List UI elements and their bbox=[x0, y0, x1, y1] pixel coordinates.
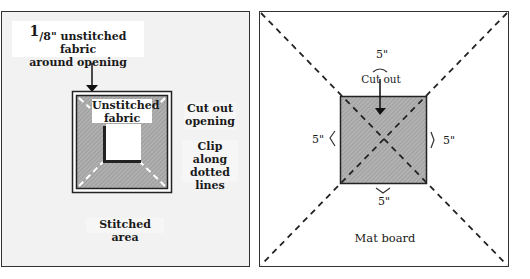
mat-board-label: Mat board bbox=[350, 232, 420, 245]
cut-out-label: Cut out bbox=[356, 73, 406, 86]
top-measure-label: 5" bbox=[370, 48, 394, 61]
left-measure-label: 5" bbox=[307, 133, 329, 146]
right-measure-label: 5" bbox=[438, 134, 460, 147]
bottom-measure-label: 5" bbox=[373, 195, 395, 208]
